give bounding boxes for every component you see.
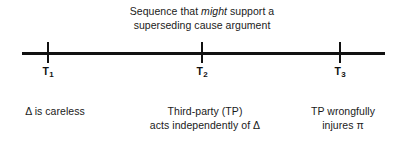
- figure-title-line-2: superseding cause argument: [101, 18, 303, 32]
- figure-title-emphasis: might: [201, 5, 227, 17]
- tick-label-subscript-t2: 2: [203, 70, 208, 79]
- timeline-figure: Sequence that might support a supersedin…: [0, 0, 402, 148]
- tick-label-base-t3: T: [334, 65, 341, 77]
- figure-title-text-before-emphasis: Sequence that: [130, 5, 201, 17]
- timeline-tick-t2: [201, 42, 203, 63]
- caption-line: acts independently of Δ: [130, 118, 280, 132]
- caption-line: TP wrongfully: [288, 104, 398, 118]
- caption-line: injures π: [288, 118, 398, 132]
- tick-label-subscript-t1: 1: [49, 70, 54, 79]
- figure-title-line-1: Sequence that might support a: [101, 4, 303, 18]
- timeline-caption-t3: TP wrongfully injures π: [288, 104, 398, 132]
- figure-title: Sequence that might support a supersedin…: [101, 4, 303, 32]
- timeline-tick-t1: [47, 42, 49, 63]
- timeline-tick-t3: [339, 42, 341, 63]
- tick-label-base-t2: T: [196, 65, 203, 77]
- timeline-caption-t2: Third-party (TP) acts independently of Δ: [130, 104, 280, 132]
- figure-title-text-after-emphasis: support a: [227, 5, 274, 17]
- caption-line: Third-party (TP): [130, 104, 280, 118]
- tick-label-subscript-t3: 3: [341, 70, 346, 79]
- timeline-tick-label-t2: T2: [172, 65, 232, 79]
- timeline-axis: [22, 52, 385, 55]
- timeline-caption-t1: Δ is careless: [5, 104, 105, 118]
- timeline-tick-label-t1: T1: [18, 65, 78, 79]
- caption-line: Δ is careless: [5, 104, 105, 118]
- timeline-tick-label-t3: T3: [310, 65, 370, 79]
- tick-label-base-t1: T: [42, 65, 49, 77]
